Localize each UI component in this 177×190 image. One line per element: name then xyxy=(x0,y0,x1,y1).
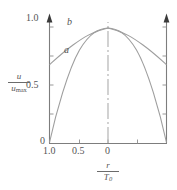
x-axis-label-numerator: r xyxy=(97,161,119,171)
curve-label-a: a xyxy=(64,45,69,55)
y-axis-label: u umax xyxy=(8,72,30,94)
x-axis-label-denominator-subscript: 0 xyxy=(109,175,112,182)
x-tick-label-0-5: 0.5 xyxy=(72,146,85,156)
x-axis-label: r T0 xyxy=(97,161,119,183)
y-axis-label-numerator: u xyxy=(8,72,30,82)
y-axis-label-denominator-subscript: max xyxy=(16,86,27,93)
figure-container: 1.0 0.5 0 1.0 0.5 0 b a u umax r T0 xyxy=(0,0,177,190)
y-tick-label-1: 1.0 xyxy=(26,13,39,23)
plot-svg xyxy=(0,0,177,190)
x-tick-label-1-0: 1.0 xyxy=(43,146,56,156)
x-axis-label-denominator: T0 xyxy=(97,172,119,183)
y-axis xyxy=(47,14,54,144)
right-axis xyxy=(163,14,170,144)
y-axis-label-denominator: umax xyxy=(8,83,30,94)
x-tick-label-0: 0 xyxy=(105,146,110,156)
curve-label-b: b xyxy=(67,17,72,27)
